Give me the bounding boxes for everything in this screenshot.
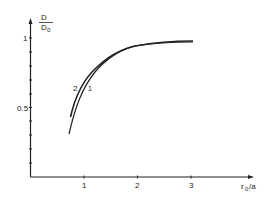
curve-2 <box>71 41 194 117</box>
svg-text:r: r <box>241 182 244 191</box>
x-axis: 1 2 3 <box>31 175 255 190</box>
x-tick-3: 3 <box>189 181 194 190</box>
x-axis-label: r 0 /a <box>241 182 256 192</box>
x-tick-2: 2 <box>135 181 140 190</box>
y-axis: 0.5 1 <box>17 18 33 177</box>
y-tick-1: 1 <box>23 34 28 43</box>
svg-text:/a: /a <box>249 182 256 191</box>
x-axis-arrow-icon <box>248 175 254 179</box>
y-tick-0.5: 0.5 <box>17 104 29 113</box>
y-axis-label: D D 0 <box>39 13 53 33</box>
chart: 0.5 1 D D 0 1 2 3 r 0 /a 2 1 <box>0 0 274 204</box>
curve-1-label: 1 <box>88 85 92 92</box>
svg-text:0: 0 <box>47 27 51 33</box>
y-axis-arrow-icon <box>29 18 33 24</box>
curve-2-label: 2 <box>73 84 78 93</box>
svg-text:D: D <box>41 13 47 22</box>
x-tick-1: 1 <box>82 181 87 190</box>
